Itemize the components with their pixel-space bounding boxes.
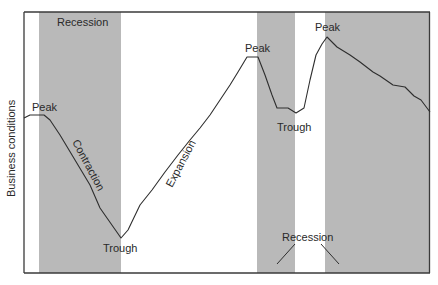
business-cycle-diagram: Business conditions Recession Peak Contr…	[0, 0, 438, 285]
chart-svg: Business conditions Recession Peak Contr…	[0, 0, 438, 285]
peak-label-1: Peak	[32, 101, 58, 113]
expansion-label: Expansion	[163, 138, 198, 189]
peak-label-2: Peak	[245, 42, 271, 54]
recession-band-3	[325, 12, 429, 273]
trough-label-2: Trough	[277, 121, 311, 133]
y-axis-label: Business conditions	[5, 99, 17, 197]
recession-label-bottom: Recession	[282, 231, 333, 243]
peak-label-3: Peak	[315, 21, 341, 33]
trough-label-1: Trough	[103, 242, 137, 254]
recession-label-top: Recession	[57, 16, 108, 28]
